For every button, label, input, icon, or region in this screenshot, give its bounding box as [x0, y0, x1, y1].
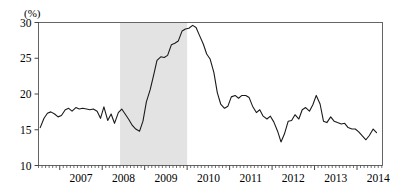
y-tick-label: 15: [20, 124, 32, 136]
recession-band: [120, 23, 187, 166]
x-tick-label: 2010: [197, 172, 220, 184]
chart-background: [0, 0, 401, 193]
y-tick-label: 25: [20, 52, 32, 64]
y-tick-label: 10: [20, 160, 32, 172]
y-tick-label: 20: [20, 88, 32, 100]
y-axis-unit-label: (%): [24, 7, 41, 20]
x-tick-label: 2009: [154, 172, 177, 184]
x-tick-label: 2014: [367, 172, 390, 184]
x-tick-label: 2007: [69, 172, 92, 184]
recession-shading: [120, 23, 187, 166]
x-tick-label: 2008: [112, 172, 135, 184]
chart-container: 1015202530 20072008200920102011201220132…: [0, 0, 401, 193]
x-tick-label: 2012: [282, 172, 305, 184]
x-tick-label: 2013: [324, 172, 347, 184]
line-chart: 1015202530 20072008200920102011201220132…: [0, 0, 401, 193]
x-tick-label: 2011: [240, 172, 263, 184]
